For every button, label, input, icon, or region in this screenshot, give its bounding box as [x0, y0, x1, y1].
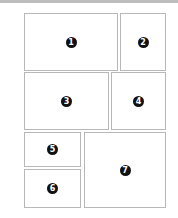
- panel-4: 4: [111, 72, 166, 130]
- panel-7: 7: [84, 132, 166, 208]
- number-marker-icon: 7: [120, 165, 131, 176]
- panel-2: 2: [120, 13, 166, 71]
- number-marker-icon: 4: [133, 96, 144, 107]
- number-marker-icon: 5: [47, 144, 58, 155]
- top-rule: [0, 0, 178, 3]
- number-marker-icon: 2: [138, 37, 149, 48]
- panel-6: 6: [24, 169, 81, 208]
- number-marker-icon: 6: [47, 183, 58, 194]
- panel-5: 5: [24, 132, 81, 167]
- panel-1: 1: [24, 13, 118, 71]
- number-marker-icon: 1: [66, 37, 77, 48]
- panel-3: 3: [24, 72, 109, 130]
- number-marker-icon: 3: [61, 96, 72, 107]
